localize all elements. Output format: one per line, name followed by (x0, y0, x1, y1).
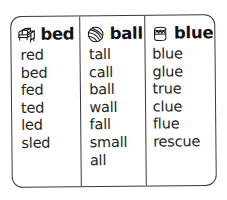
list-item: wall (87, 98, 145, 116)
list-item: rescue (152, 133, 215, 151)
word-family-column-bed: bed red bed fed ted led sled (11, 16, 81, 187)
list-item: ball (87, 81, 145, 99)
list-item: ted (18, 99, 80, 117)
ball-icon (87, 25, 108, 44)
bed-icon (17, 25, 38, 44)
column-header-ball: ball (87, 23, 143, 46)
word-list-ball: tall call ball wall fall small all (87, 46, 146, 170)
list-item: true (151, 80, 214, 98)
list-item: tall (87, 46, 145, 64)
column-header-label: ball (110, 25, 143, 42)
paint-can-icon (151, 24, 172, 43)
word-family-column-blue: blue blue glue true clue flue rescue (144, 15, 216, 186)
list-item: bed (18, 64, 80, 82)
list-item: call (87, 63, 145, 81)
word-family-chart: bed red bed fed ted led sled ball (10, 14, 217, 188)
list-item: flue (152, 115, 215, 133)
word-list-bed: red bed fed ted led sled (17, 46, 80, 152)
list-item: clue (152, 98, 215, 116)
list-item: led (18, 117, 80, 135)
list-item: red (17, 46, 79, 64)
list-item: small (88, 134, 146, 152)
column-header-blue: blue (151, 22, 213, 45)
list-item: fall (87, 116, 145, 134)
word-list-blue: blue glue true clue flue rescue (151, 45, 215, 151)
column-header-label: bed (40, 26, 74, 43)
column-header-label: blue (174, 25, 213, 42)
column-header-bed: bed (17, 23, 74, 46)
list-item: fed (18, 82, 80, 100)
list-item: sled (18, 134, 80, 152)
list-item: blue (151, 45, 214, 63)
list-item: glue (151, 63, 214, 81)
list-item: all (88, 151, 146, 169)
word-family-column-ball: ball tall call ball wall fall small all (79, 16, 145, 187)
